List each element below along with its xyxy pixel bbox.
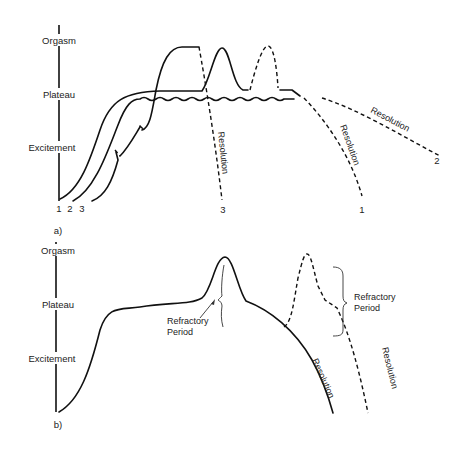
refractory-label-2-line2: Period <box>354 303 380 313</box>
resolution-label-2: Resolution <box>369 105 411 134</box>
refractory-bracket-1 <box>218 265 224 327</box>
panel-b-label-orgasm: Orgasm <box>41 245 75 256</box>
resolution-label-dashed: Resolution <box>380 346 400 390</box>
panel-b-label-excitement: Excitement <box>29 353 76 364</box>
resolution-label-1: Resolution <box>338 123 362 166</box>
curve-1-start-label: 1 <box>56 203 61 214</box>
refractory-label-2-line1: Refractory <box>354 292 396 302</box>
curve-1-plateau-tail <box>280 90 300 96</box>
resolution-label-solid: Resolution <box>310 357 336 400</box>
sexual-response-diagram: Orgasm Plateau Excitement 1 2 3 3 1 2 Re… <box>0 0 466 455</box>
curve-1 <box>60 48 248 199</box>
curve-3 <box>92 47 199 201</box>
panel-b-label-plateau: Plateau <box>42 299 74 310</box>
panel-a-label-orgasm: Orgasm <box>42 35 76 46</box>
curve-1-end-label: 1 <box>359 204 364 215</box>
curve-2 <box>73 98 294 202</box>
curve-2-end-label: 2 <box>434 155 439 166</box>
curve-1-second-peak <box>250 46 278 90</box>
panel-a-label: a) <box>54 225 62 236</box>
refractory-label-1-line2: Period <box>167 327 193 337</box>
refractory-label-1-line1: Refractory <box>167 316 209 326</box>
panel-a: Orgasm Plateau Excitement 1 2 3 3 1 2 Re… <box>22 25 440 236</box>
curve-2-start-label: 2 <box>67 203 72 214</box>
curve-3-end-label: 3 <box>220 204 225 215</box>
panel-b: Orgasm Plateau Excitement Refractory Per… <box>22 242 400 430</box>
curve-3-start-label: 3 <box>79 203 84 214</box>
panel-b-label: b) <box>54 419 62 430</box>
panel-a-label-excitement: Excitement <box>29 142 76 153</box>
response-curve <box>59 257 333 413</box>
panel-a-label-plateau: Plateau <box>43 89 75 100</box>
